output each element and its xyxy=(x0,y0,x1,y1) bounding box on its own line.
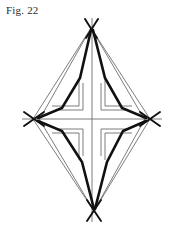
figure-container: Fig. 22 xyxy=(0,0,176,226)
chord-bottom-right-inner xyxy=(94,117,146,211)
chord-bottom-left-inner xyxy=(38,117,94,211)
bent-path-lower-left xyxy=(38,121,94,209)
chord-top-right-inner xyxy=(91,28,146,122)
figure-diagram xyxy=(0,0,176,226)
thin-line-group xyxy=(22,18,162,222)
